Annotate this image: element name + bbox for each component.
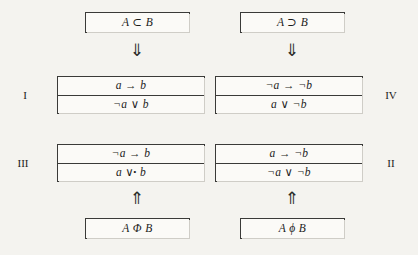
quadrant-IV-line-1: ¬a → ¬b <box>216 77 362 95</box>
double-up-arrow-icon-left: ⇑ <box>127 190 147 207</box>
quadrant-II-line-2: ¬a ∨ ¬b <box>216 163 362 182</box>
box-a-superset-b: A ⊃ B <box>240 12 345 33</box>
label-numeral-III: III <box>6 158 40 169</box>
label-numeral-I: I <box>8 90 42 101</box>
quadrant-III-line-2-suffix: b <box>140 167 146 179</box>
box-a-phi-capital-b-text: A Φ B <box>86 219 189 238</box>
quadrant-III-line-2: a ∨• b <box>58 163 204 182</box>
label-numeral-II: II <box>374 158 408 169</box>
quadrant-III-line-1: ¬a → b <box>58 145 204 163</box>
quadrant-I-line-1: a → b <box>58 77 204 95</box>
box-a-subset-b: A ⊂ B <box>85 12 190 33</box>
box-a-subset-b-text: A ⊂ B <box>86 13 189 32</box>
double-down-arrow-icon-right: ⇓ <box>282 42 302 59</box>
label-numeral-IV: IV <box>374 90 408 101</box>
logic-diagram-canvas: A ⊂ B A ⊃ B ⇓ ⇓ a → b ¬a ∨ b ¬a → ¬b a ∨… <box>0 0 418 255</box>
quadrant-I-box: a → b ¬a ∨ b <box>57 76 205 114</box>
quadrant-III-line-2-dot: • <box>133 168 137 177</box>
quadrant-I-line-2: ¬a ∨ b <box>58 95 204 114</box>
quadrant-IV-box: ¬a → ¬b a ∨ ¬b <box>215 76 363 114</box>
quadrant-III-line-2-prefix: a ∨ <box>116 167 134 179</box>
quadrant-II-box: a → ¬b ¬a ∨ ¬b <box>215 144 363 182</box>
box-a-superset-b-text: A ⊃ B <box>241 13 344 32</box>
box-a-phi-small-b: A ϕ B <box>240 218 345 239</box>
double-up-arrow-icon-right: ⇑ <box>282 190 302 207</box>
double-down-arrow-icon-left: ⇓ <box>127 42 147 59</box>
quadrant-III-box: ¬a → b a ∨• b <box>57 144 205 182</box>
box-a-phi-capital-b: A Φ B <box>85 218 190 239</box>
quadrant-IV-line-2: a ∨ ¬b <box>216 95 362 114</box>
box-a-phi-small-b-text: A ϕ B <box>241 219 344 238</box>
quadrant-II-line-1: a → ¬b <box>216 145 362 163</box>
